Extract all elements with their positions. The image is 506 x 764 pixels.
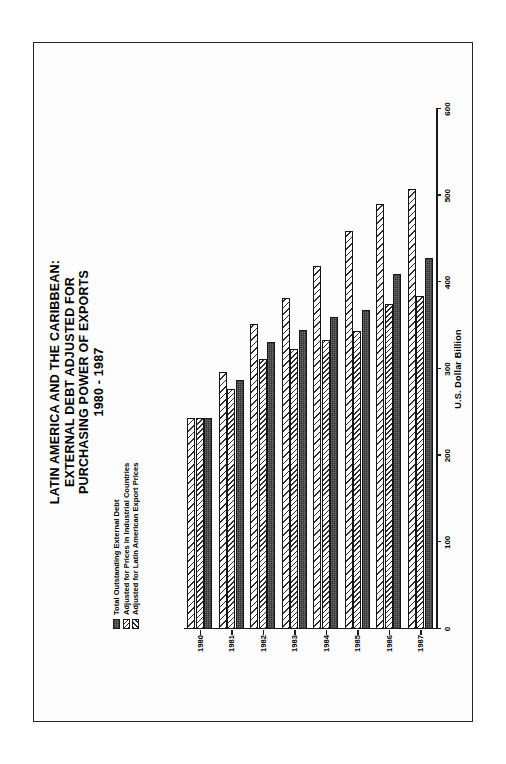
bar	[267, 342, 275, 629]
legend-swatch-icon	[132, 619, 139, 629]
value-tick	[436, 454, 441, 455]
bars-container	[184, 109, 436, 629]
bar	[393, 274, 401, 629]
bar	[330, 317, 338, 629]
legend-item: Total Outstanding External Debt	[112, 463, 122, 629]
category-tick	[326, 630, 327, 635]
category-tick	[357, 630, 358, 635]
bar-group	[405, 109, 437, 629]
bar	[236, 380, 244, 629]
bar	[345, 231, 353, 629]
category-tick-label: 1986	[385, 635, 394, 669]
category-tick	[263, 630, 264, 635]
value-tick	[436, 368, 441, 369]
category-tick-label: 1985	[353, 635, 362, 669]
bar	[353, 331, 361, 629]
bar	[376, 204, 384, 629]
value-tick	[436, 108, 441, 109]
value-tick	[436, 281, 441, 282]
value-tick-label: 100	[443, 536, 452, 549]
chart-title: LATIN AMERICA AND THE CARIBBEAN: EXTERNA…	[48, 43, 106, 721]
value-tick	[436, 194, 441, 195]
bar	[322, 340, 330, 629]
value-tick-label: 400	[443, 276, 452, 289]
category-tick-label: 1987	[416, 635, 425, 669]
chart-legend: Total Outstanding External Debt Adjusted…	[112, 463, 141, 629]
category-tick-label: 1983	[290, 635, 299, 669]
bar-group	[279, 109, 311, 629]
rotated-figure-wrapper: LATIN AMERICA AND THE CARIBBEAN: EXTERNA…	[33, 42, 473, 722]
bar-group	[342, 109, 374, 629]
bar	[250, 324, 258, 629]
legend-swatch-icon	[113, 619, 120, 629]
bar	[290, 349, 298, 629]
bar	[187, 418, 195, 629]
legend-item-label: Adjusted for Prices in Industrial Countr…	[122, 463, 132, 615]
legend-swatch-icon	[123, 619, 130, 629]
value-axis: 0100200300400500600	[436, 109, 438, 629]
value-tick-label: 0	[443, 627, 452, 631]
bar	[196, 418, 204, 629]
value-axis-title: U.S. Dollar Billion	[453, 109, 463, 629]
category-tick-label: 1982	[259, 635, 268, 669]
value-tick-label: 600	[443, 102, 452, 115]
bar	[219, 372, 227, 629]
bar-group	[184, 109, 216, 629]
bar	[408, 189, 416, 629]
category-tick-label: 1980	[196, 635, 205, 669]
chart-figure: LATIN AMERICA AND THE CARIBBEAN: EXTERNA…	[33, 42, 473, 722]
bar-group	[373, 109, 405, 629]
bar-group	[247, 109, 279, 629]
category-tick	[200, 630, 201, 635]
category-tick	[389, 630, 390, 635]
category-tick	[420, 630, 421, 635]
bar	[259, 359, 267, 629]
bar	[204, 418, 212, 629]
bar	[313, 266, 321, 629]
value-tick-label: 200	[443, 449, 452, 462]
legend-item: Adjusted for Prices in Industrial Countr…	[122, 463, 132, 629]
legend-item-label: Adjusted for Latin American Export Price…	[131, 463, 141, 615]
bar	[416, 296, 424, 629]
value-tick	[436, 541, 441, 542]
bar	[362, 310, 370, 629]
value-tick	[436, 628, 441, 629]
plot-area	[184, 109, 436, 629]
page-canvas: LATIN AMERICA AND THE CARIBBEAN: EXTERNA…	[0, 0, 506, 764]
category-tick-label: 1984	[322, 635, 331, 669]
category-tick	[294, 630, 295, 635]
bar	[227, 389, 235, 629]
bar	[282, 298, 290, 629]
chart-title-line-1: LATIN AMERICA AND THE CARIBBEAN:	[48, 43, 63, 721]
chart-title-line-4: 1980 - 1987	[92, 43, 107, 721]
value-tick-label: 500	[443, 189, 452, 202]
legend-item: Adjusted for Latin American Export Price…	[131, 463, 141, 629]
chart-title-line-2: EXTERNAL DEBT ADJUSTED FOR	[63, 43, 78, 721]
value-axis-baseline	[184, 628, 436, 629]
bar-group	[310, 109, 342, 629]
category-tick	[231, 630, 232, 635]
bar-group	[216, 109, 248, 629]
legend-item-label: Total Outstanding External Debt	[112, 500, 122, 615]
bar	[425, 258, 433, 629]
bar	[385, 304, 393, 629]
chart-title-line-3: PURCHASING POWER OF EXPORTS	[77, 43, 92, 721]
bar	[299, 330, 307, 629]
category-tick-label: 1981	[227, 635, 236, 669]
value-tick-label: 300	[443, 362, 452, 375]
